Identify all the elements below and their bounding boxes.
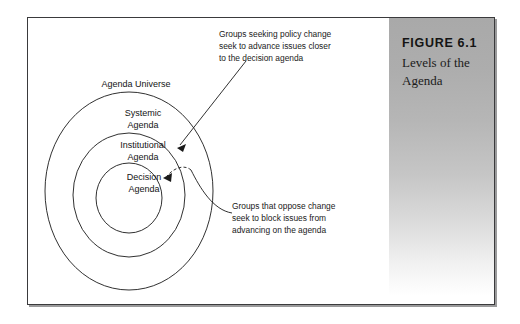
annotation-advance-issues: Groups seeking policy change seek to adv… xyxy=(219,29,354,65)
advance-arrow-line xyxy=(180,61,246,145)
figure-frame: Agenda Universe Systemic Agenda Institut… xyxy=(27,17,495,305)
figure-number: FIGURE 6.1 xyxy=(402,36,488,50)
figure-caption-inner: FIGURE 6.1 Levels of the Agenda xyxy=(402,36,488,89)
ring-label-decision-agenda: Decision Agenda xyxy=(102,172,186,195)
ring-label-systemic-agenda: Systemic Agenda xyxy=(100,108,186,131)
ring-label-agenda-universe: Agenda Universe xyxy=(76,79,196,91)
figure-screenshot: Agenda Universe Systemic Agenda Institut… xyxy=(0,0,520,324)
figure-title: Levels of the Agenda xyxy=(402,54,488,88)
annotation-block-issues: Groups that oppose change seek to block … xyxy=(232,201,372,237)
figure-caption-panel: FIGURE 6.1 Levels of the Agenda xyxy=(389,18,494,304)
block-arrow-line xyxy=(191,170,232,213)
ring-label-institutional-agenda: Institutional Agenda xyxy=(91,140,195,163)
